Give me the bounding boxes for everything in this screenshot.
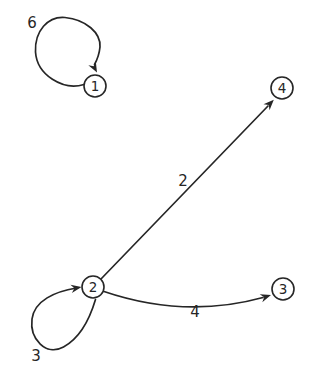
edge-2-3: 4	[104, 291, 272, 321]
edge-line	[101, 106, 269, 280]
edge-line	[32, 288, 96, 350]
edge-line	[104, 292, 263, 307]
node-2: 2	[82, 276, 104, 298]
edge-weight-label-1-1: 6	[27, 14, 37, 32]
node-4: 4	[271, 77, 293, 99]
node-label: 3	[279, 281, 288, 297]
edge-1-1: 6	[27, 14, 100, 86]
node-label: 2	[89, 279, 98, 295]
node-3: 3	[272, 278, 294, 300]
edge-weight-label-2-4: 2	[178, 172, 188, 190]
edge-weight-label-2-2: 3	[31, 347, 41, 365]
node-1: 1	[84, 75, 106, 97]
node-label: 4	[278, 80, 287, 96]
node-label: 1	[91, 78, 100, 94]
edge-2-4: 2	[101, 97, 277, 280]
graph-svg: 62431234	[0, 0, 315, 378]
arrowhead-icon	[260, 291, 273, 302]
directed-graph-figure: 62431234	[0, 0, 315, 378]
edge-weight-label-2-3: 4	[190, 303, 200, 321]
